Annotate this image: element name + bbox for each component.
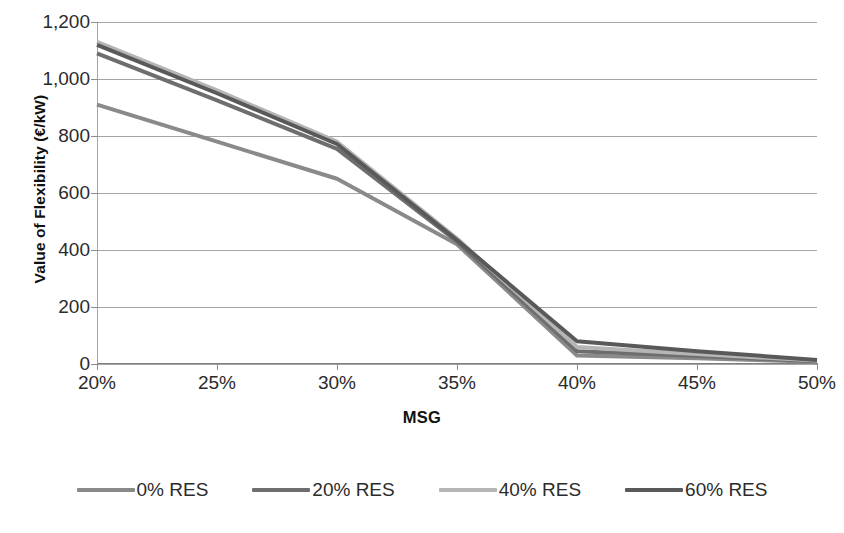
y-tick-label: 1,000 [12, 69, 90, 88]
x-tick-label: 45% [652, 372, 742, 394]
legend-label: 60% RES [685, 480, 767, 499]
legend-item[interactable]: 60% RES [625, 480, 767, 499]
legend-label: 40% RES [499, 480, 581, 499]
x-tick-mark [697, 363, 698, 370]
x-tick-mark [457, 363, 458, 370]
x-tick-mark [337, 363, 338, 370]
legend-line-swatch-icon [77, 488, 135, 492]
x-tick-label: 50% [772, 372, 844, 394]
y-axis-tick-labels: 02004006008001,0001,200 [8, 0, 90, 533]
x-tick-label: 35% [412, 372, 502, 394]
legend-item[interactable]: 40% RES [439, 480, 581, 499]
x-tick-mark [97, 363, 98, 370]
x-tick-label: 40% [532, 372, 622, 394]
legend-item[interactable]: 0% RES [77, 480, 209, 499]
x-tick-label: 30% [292, 372, 382, 394]
series-lines [97, 22, 817, 364]
x-tick-mark [217, 363, 218, 370]
legend-line-swatch-icon [439, 488, 497, 492]
legend-label: 20% RES [312, 480, 394, 499]
x-tick-mark [817, 363, 818, 370]
x-axis-tick-labels: 20%25%30%35%40%45%50% [97, 372, 817, 406]
y-tick-label: 600 [12, 183, 90, 202]
series-line [97, 45, 817, 360]
legend-line-swatch-icon [625, 488, 683, 492]
plot-area [97, 22, 817, 364]
x-tick-label: 25% [172, 372, 262, 394]
legend-item[interactable]: 20% RES [252, 480, 394, 499]
chart-legend: 0% RES20% RES40% RES60% RES [0, 480, 844, 499]
y-tick-label: 800 [12, 126, 90, 145]
series-line [97, 105, 817, 362]
value-of-flexibility-line-chart: Value of Flexibility (€/kW) 020040060080… [0, 0, 844, 533]
x-axis-title: MSG [0, 408, 844, 427]
y-tick-label: 400 [12, 240, 90, 259]
y-tick-label: 200 [12, 297, 90, 316]
y-tick-label: 0 [12, 354, 90, 373]
legend-label: 0% RES [137, 480, 209, 499]
legend-line-swatch-icon [252, 488, 310, 492]
x-tick-label: 20% [52, 372, 142, 394]
series-line [97, 53, 817, 361]
y-tick-label: 1,200 [12, 12, 90, 31]
x-tick-mark [577, 363, 578, 370]
